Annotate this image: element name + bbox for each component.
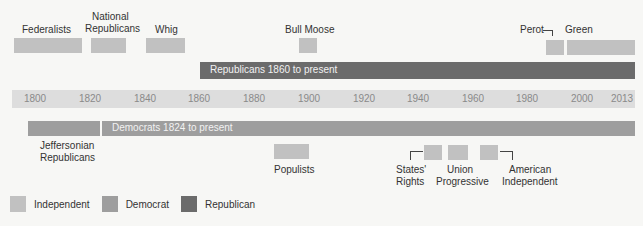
- tick-1980: 1980: [516, 93, 538, 104]
- national-republicans-bar: [91, 38, 126, 53]
- tick-1800: 1800: [24, 93, 46, 104]
- republican-bar-label: Republicans 1860 to present: [210, 62, 337, 78]
- tick-1940: 1940: [407, 93, 429, 104]
- tick-1920: 1920: [353, 93, 375, 104]
- union-progressive-label-2: Progressive: [436, 176, 489, 187]
- tick-1820: 1820: [79, 93, 101, 104]
- bull-moose-bar: [299, 38, 317, 53]
- legend-label-independent: Independent: [34, 199, 90, 210]
- tick-2000: 2000: [571, 93, 593, 104]
- states-rights-label-1: States': [396, 164, 426, 175]
- bull-moose-label: Bull Moose: [285, 24, 334, 35]
- national-republicans-label-1: National: [92, 11, 129, 22]
- american-independent-label-2: Independent: [502, 176, 558, 187]
- populists-label: Populists: [274, 164, 315, 175]
- legend-item-republican: Republican: [181, 196, 255, 212]
- legend-label-republican: Republican: [205, 199, 255, 210]
- whig-bar: [146, 38, 185, 53]
- democrat-bar: Democrats 1824 to present: [102, 121, 635, 136]
- national-republicans-label-2: Republicans: [85, 23, 140, 34]
- federalists-bar: [14, 38, 82, 53]
- tick-1960: 1960: [462, 93, 484, 104]
- union-progressive-bar: [448, 145, 468, 160]
- tick-2013: 2013: [611, 93, 633, 104]
- american-independent-label-1: American: [509, 164, 551, 175]
- republican-bar: Republicans 1860 to present: [200, 62, 635, 79]
- perot-label: Perot: [520, 24, 544, 35]
- tick-1880: 1880: [243, 93, 265, 104]
- whig-label: Whig: [155, 24, 178, 35]
- populists-bar: [274, 144, 309, 159]
- timeline-axis: 1800 1820 1840 1860 1880 1900 1920 1940 …: [12, 90, 635, 108]
- legend-item-independent: Independent: [10, 196, 90, 212]
- jeffersonian-label-1: Jeffersonian: [40, 140, 94, 151]
- independent-swatch: [10, 196, 26, 212]
- states-rights-bar: [424, 145, 442, 160]
- perot-bracket: [543, 30, 553, 36]
- tick-1840: 1840: [134, 93, 156, 104]
- federalists-label: Federalists: [22, 24, 71, 35]
- american-independent-bar: [480, 145, 498, 160]
- jeffersonian-label-2: Republicans: [40, 152, 95, 163]
- green-bar: [567, 40, 635, 55]
- tick-1860: 1860: [188, 93, 210, 104]
- states-rights-bracket: [410, 151, 423, 160]
- legend-label-democrat: Democrat: [126, 199, 169, 210]
- green-label: Green: [565, 24, 593, 35]
- american-independent-bracket: [500, 151, 513, 160]
- democrat-swatch: [102, 196, 118, 212]
- tick-1900: 1900: [298, 93, 320, 104]
- legend: Independent Democrat Republican: [10, 196, 267, 212]
- democrat-bar-label: Democrats 1824 to present: [112, 120, 233, 136]
- legend-item-democrat: Democrat: [102, 196, 169, 212]
- perot-bar: [546, 40, 564, 55]
- republican-swatch: [181, 196, 197, 212]
- jeffersonian-republicans-bar: [28, 121, 100, 136]
- union-progressive-label-1: Union: [447, 164, 473, 175]
- states-rights-label-2: Rights: [396, 176, 424, 187]
